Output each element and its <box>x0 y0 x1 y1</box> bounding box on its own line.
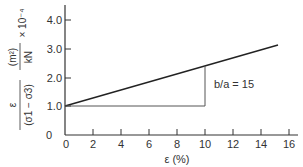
y-ticks <box>65 20 71 106</box>
x-ticks <box>93 129 289 135</box>
svg-text:2.0: 2.0 <box>47 72 62 84</box>
svg-text:0: 0 <box>46 129 52 141</box>
svg-text:8: 8 <box>174 138 180 150</box>
y-axis-label: ε (σ1 − σ3) (m²) kN × 10⁻⁴ <box>7 8 34 130</box>
svg-text:10: 10 <box>199 138 211 150</box>
svg-text:4: 4 <box>118 138 124 150</box>
svg-text:× 10⁻⁴: × 10⁻⁴ <box>17 8 28 37</box>
svg-text:kN: kN <box>23 51 34 63</box>
svg-text:6: 6 <box>146 138 152 150</box>
svg-text:3.0: 3.0 <box>47 43 62 55</box>
svg-text:16: 16 <box>283 138 295 150</box>
chart: 0 1.0 2.0 3.0 4.0 0 2 4 6 8 10 12 14 16 … <box>0 0 303 167</box>
svg-text:(σ1 − σ3): (σ1 − σ3) <box>23 84 34 126</box>
data-line <box>65 45 278 106</box>
svg-text:ε: ε <box>7 102 18 107</box>
slope-annotation: b/a = 15 <box>214 78 254 90</box>
svg-text:(m²): (m²) <box>7 48 18 66</box>
svg-text:4.0: 4.0 <box>47 14 62 26</box>
svg-text:2: 2 <box>90 138 96 150</box>
x-axis-label: ε (%) <box>164 153 189 165</box>
svg-text:1.0: 1.0 <box>47 100 62 112</box>
svg-text:14: 14 <box>255 138 267 150</box>
svg-text:12: 12 <box>227 138 239 150</box>
svg-text:0: 0 <box>63 138 69 150</box>
y-tick-labels: 0 1.0 2.0 3.0 4.0 <box>46 14 62 141</box>
x-tick-labels: 0 2 4 6 8 10 12 14 16 <box>63 138 295 150</box>
